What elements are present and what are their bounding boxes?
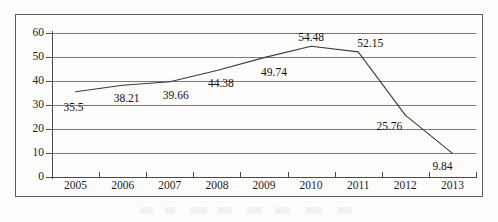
x-tick-mark-2 [146,172,147,178]
data-label-2012: 25.76 [376,121,402,133]
x-tick-mark-5 [288,172,289,178]
y-tick-label-wrap: 0 [0,171,44,172]
y-tick-label-wrap: 50 [0,51,44,52]
data-label-2011: 52.15 [357,38,383,50]
y-tick-mark-60 [46,33,53,34]
data-label-2009: 49.74 [261,67,287,79]
data-label-2005: 35.5 [63,102,83,114]
clipped-caption-text [130,207,380,214]
y-tick-mark-20 [46,129,53,130]
y-tick-label-wrap: 60 [0,27,44,28]
line-chart-figure: 0102030405060 20052006200720082009201020… [0,0,498,222]
x-axis-line [52,177,476,178]
gridline-60 [52,33,476,34]
gridline-holder [52,33,476,177]
data-label-2013: 9.84 [432,161,452,173]
y-tick-label-0: 0 [4,171,44,183]
data-label-2006: 38.21 [114,93,140,105]
y-tick-label-wrap: 20 [0,123,44,124]
y-tick-label-30: 30 [4,99,44,111]
x-tick-mark-7 [382,172,383,178]
y-tick-label-wrap: 10 [0,147,44,148]
y-tick-mark-30 [46,105,53,106]
y-tick-label-wrap: 30 [0,99,44,100]
y-tick-label-wrap: 40 [0,75,44,76]
data-label-2010: 54.48 [298,32,324,44]
x-tick-mark-0 [52,172,53,178]
y-tick-label-50: 50 [4,51,44,63]
y-tick-mark-40 [46,81,53,82]
y-tick-label-60: 60 [4,27,44,39]
y-tick-label-20: 20 [4,123,44,135]
x-tick-mark-6 [335,172,336,178]
x-tick-mark-8 [429,172,430,178]
x-tick-mark-9 [476,172,477,178]
data-label-2007: 39.66 [163,90,189,102]
y-tick-mark-10 [46,153,53,154]
x-tick-mark-3 [193,172,194,178]
x-tick-label-2013: 2013 [422,180,482,192]
data-label-2008: 44.38 [208,78,234,90]
x-tick-mark-1 [99,172,100,178]
y-tick-label-10: 10 [4,147,44,159]
x-tick-mark-4 [240,172,241,178]
y-tick-label-40: 40 [4,75,44,87]
y-tick-mark-50 [46,57,53,58]
